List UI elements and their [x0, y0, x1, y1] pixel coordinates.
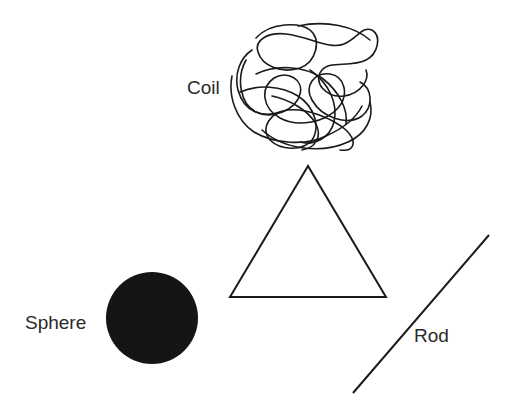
diagram-canvas	[0, 0, 517, 408]
rod-label: Rod	[414, 326, 449, 345]
sphere-label: Sphere	[25, 313, 86, 332]
coil-label: Coil	[187, 78, 220, 97]
sphere-shape	[106, 272, 198, 364]
coil-shape	[231, 24, 378, 151]
rod-shape	[353, 235, 489, 393]
triangle-shape	[230, 166, 386, 297]
